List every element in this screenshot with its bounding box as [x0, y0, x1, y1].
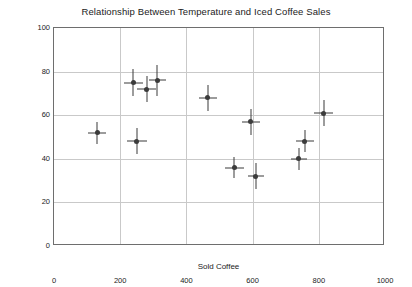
y-tick-label: 0 — [4, 241, 50, 250]
gridline-vertical — [186, 28, 187, 244]
x-tick-label: 600 — [246, 276, 259, 285]
y-tick-label: 60 — [4, 110, 50, 119]
gridline-vertical — [253, 28, 254, 244]
scatter-marker — [232, 165, 237, 170]
x-tick-label: 1000 — [377, 276, 394, 285]
y-axis-ticks: 020406080100 — [0, 27, 50, 245]
plot-area: 02004006008001000 — [53, 27, 384, 245]
scatter-marker — [205, 95, 210, 100]
gridline-vertical — [319, 28, 320, 244]
scatter-marker — [321, 111, 326, 116]
chart-title: Relationship Between Temperature and Ice… — [0, 6, 412, 17]
x-tick-label: 200 — [114, 276, 127, 285]
gridline-horizontal — [54, 159, 383, 160]
scatter-marker — [155, 78, 160, 83]
scatter-marker — [253, 174, 258, 179]
y-tick-label: 20 — [4, 197, 50, 206]
gridline-vertical — [120, 28, 121, 244]
scatter-marker — [134, 139, 139, 144]
scatter-marker — [144, 87, 149, 92]
gridline-horizontal — [54, 202, 383, 203]
scatter-marker — [95, 130, 100, 135]
gridline-horizontal — [54, 72, 383, 73]
scatter-marker — [131, 80, 136, 85]
y-tick-label: 40 — [4, 153, 50, 162]
scatter-marker — [296, 156, 301, 161]
x-tick-label: 800 — [313, 276, 326, 285]
x-axis-label: Sold Coffee — [53, 262, 384, 271]
y-tick-label: 80 — [4, 66, 50, 75]
gridline-horizontal — [54, 115, 383, 116]
x-tick-label: 0 — [52, 276, 56, 285]
chart-figure: Relationship Between Temperature and Ice… — [0, 0, 412, 287]
scatter-marker — [302, 139, 307, 144]
x-tick-label: 400 — [180, 276, 193, 285]
y-tick-label: 100 — [4, 23, 50, 32]
